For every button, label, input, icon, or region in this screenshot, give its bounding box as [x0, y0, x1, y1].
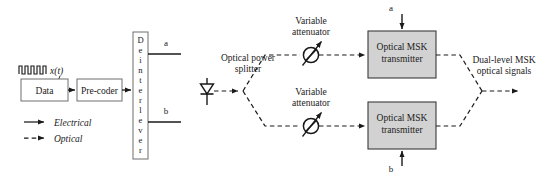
figure-canvas: x(t) Data Pre-coder D e i n t e r l e v … [0, 0, 552, 175]
legend-label-electrical: Electrical [53, 118, 92, 128]
optical-msk-transmitter-lower: Optical MSK transmitter [368, 102, 436, 149]
svg-text:e: e [139, 85, 143, 95]
transmitter-upper-line1: Optical MSK [377, 42, 428, 52]
drive-input-label-a: a [389, 3, 393, 13]
svg-text:optical signals: optical signals [477, 66, 532, 76]
variable-attenuator-icon [303, 42, 322, 66]
svg-text:splitter: splitter [235, 64, 262, 74]
svg-text:Dual-level MSK: Dual-level MSK [472, 55, 535, 65]
svg-text:r: r [139, 95, 142, 105]
variable-attenuator-icon [303, 113, 322, 137]
precoder-block-label: Pre-coder [81, 86, 119, 96]
optical-msk-transmitter-upper: Optical MSK transmitter [368, 31, 436, 78]
transmitter-lower-line1: Optical MSK [377, 113, 428, 123]
deinterleaver-block: D e i n t e r l e v e r [133, 32, 148, 159]
variable-attenuator-upper: Variable attenuator [292, 16, 331, 66]
legend-item-optical: Optical [24, 134, 83, 144]
svg-text:r: r [139, 145, 142, 155]
attenuator-label-lower-line1: Variable [295, 87, 327, 97]
svg-text:v: v [138, 125, 143, 135]
drive-input-label-b: b [389, 164, 394, 174]
precoder-block: Pre-coder [77, 79, 122, 101]
attenuator-label-upper-line2: attenuator [292, 27, 331, 37]
block-diagram: x(t) Data Pre-coder D e i n t e r l e v … [0, 0, 552, 175]
signal-label: x(t) [49, 66, 63, 77]
svg-text:e: e [139, 135, 143, 145]
data-block-label: Data [36, 86, 55, 96]
legend: Electrical Optical [24, 118, 92, 144]
variable-attenuator-lower: Variable attenuator [292, 87, 331, 137]
output-label-dual-level: Dual-level MSK optical signals [472, 55, 535, 76]
attenuator-label-lower-line2: attenuator [292, 98, 331, 108]
output-label-b: b [164, 106, 169, 116]
svg-text:Optical power: Optical power [221, 53, 276, 63]
svg-text:D: D [137, 35, 143, 45]
attenuator-label-upper-line1: Variable [295, 16, 327, 26]
transmitter-lower-line2: transmitter [381, 125, 423, 135]
svg-text:e: e [139, 115, 143, 125]
combiner-branch-lower [436, 91, 482, 126]
legend-label-optical: Optical [54, 134, 83, 144]
output-label-a: a [164, 38, 168, 48]
legend-item-electrical: Electrical [24, 118, 92, 128]
splitter-label: Optical power splitter [221, 53, 276, 74]
svg-text:e: e [139, 45, 143, 55]
square-wave-pulse-train-icon [19, 66, 46, 74]
splitter-branch-lower [243, 91, 300, 126]
transmitter-upper-line2: transmitter [381, 54, 423, 64]
svg-text:n: n [138, 65, 143, 75]
laser-diode-icon [201, 78, 214, 105]
data-block: Data [21, 79, 68, 101]
